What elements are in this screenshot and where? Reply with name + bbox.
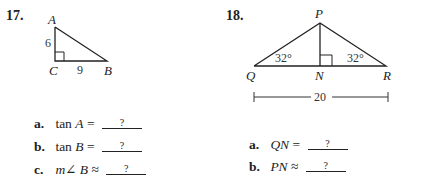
answer-blank[interactable]: ?	[102, 117, 142, 129]
triangle-abc	[55, 27, 107, 61]
question-var: QN	[270, 137, 289, 152]
question-letter: a.	[34, 116, 52, 132]
question-var: PN	[270, 159, 287, 174]
question-op: =	[87, 139, 95, 154]
vertex-label-c: C	[49, 63, 58, 79]
question-letter: b.	[34, 139, 52, 155]
vertex-label-q: Q	[246, 68, 255, 84]
question-var: B	[80, 162, 88, 177]
question-17a: a. tan A = ?	[34, 116, 142, 132]
question-17c: c. m∠ B ≈ ?	[34, 161, 146, 178]
question-op: ≈	[291, 159, 298, 174]
vertex-label-r: R	[383, 68, 391, 84]
question-op: ≈	[91, 162, 98, 177]
angle-label-q: 32°	[275, 51, 292, 66]
question-letter: c.	[34, 162, 52, 178]
question-18a: a. QN = ?	[249, 137, 348, 153]
triangle-pqr	[254, 23, 386, 66]
question-var: B	[75, 139, 83, 154]
question-op: =	[87, 116, 95, 131]
question-func: tan	[55, 116, 72, 131]
base-length-label: 20	[314, 90, 326, 105]
answer-blank[interactable]: ?	[306, 160, 346, 172]
question-func: m∠	[55, 162, 76, 177]
question-letter: a.	[249, 137, 267, 153]
vertex-label-a: A	[48, 12, 56, 28]
answer-blank[interactable]: ?	[106, 163, 146, 175]
question-var: A	[75, 116, 83, 131]
right-angle-marker-n	[320, 55, 332, 66]
answer-blank[interactable]: ?	[102, 140, 142, 152]
right-angle-marker-c	[55, 52, 64, 61]
vertex-label-n: N	[315, 68, 324, 84]
question-18b: b. PN ≈ ?	[249, 159, 346, 175]
angle-label-r: 32°	[347, 51, 364, 66]
question-17b: b. tan B = ?	[34, 139, 142, 155]
vertex-label-b: B	[104, 63, 112, 79]
vertex-label-p: P	[315, 6, 323, 22]
question-op: =	[293, 137, 301, 152]
side-length-ac: 6	[45, 36, 51, 51]
question-letter: b.	[249, 159, 267, 175]
question-func: tan	[55, 139, 72, 154]
answer-blank[interactable]: ?	[308, 138, 348, 150]
side-length-cb: 9	[77, 63, 83, 78]
